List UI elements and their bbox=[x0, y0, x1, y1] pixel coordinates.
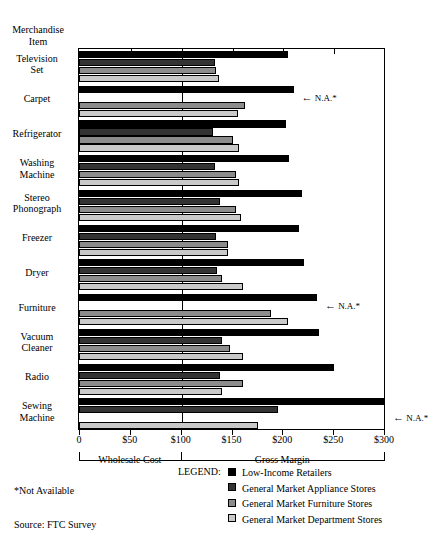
category-label-line: Washing bbox=[0, 157, 76, 169]
bar-furniture-s0 bbox=[79, 294, 317, 301]
bar-freezer-s1 bbox=[79, 233, 216, 240]
bar-radio-s2 bbox=[79, 380, 243, 387]
category-label-carpet: Carpet bbox=[0, 93, 76, 105]
category-label-refrigerator: Refrigerator bbox=[0, 128, 76, 140]
bar-vacuum-cleaner-s2 bbox=[79, 345, 230, 352]
bracket-line bbox=[181, 460, 384, 461]
na-arrow-icon: ← bbox=[393, 411, 404, 423]
legend-item-2[interactable]: General Market Furniture Stores bbox=[228, 497, 372, 512]
bar-sewing-machine-s1 bbox=[79, 406, 278, 413]
na-arrow-icon: ← bbox=[302, 91, 313, 103]
category-label-stereo-phonograph: StereoPhonograph bbox=[0, 192, 76, 215]
category-label-washing-machine: WashingMachine bbox=[0, 157, 76, 180]
category-label-line: Radio bbox=[0, 371, 76, 383]
bar-radio-s1 bbox=[79, 372, 220, 379]
bar-freezer-s3 bbox=[79, 249, 228, 256]
category-label-line: Machine bbox=[0, 412, 76, 424]
bar-washing-machine-s1 bbox=[79, 163, 215, 170]
category-label-line: Carpet bbox=[0, 93, 76, 105]
top-tick-250 bbox=[334, 49, 335, 54]
category-label-line: Stereo bbox=[0, 192, 76, 204]
legend-item-3[interactable]: General Market Department Stores bbox=[228, 513, 382, 528]
legend-item-label: Low-Income Retailers bbox=[242, 467, 332, 478]
y-axis-title: Merchandise Item bbox=[0, 24, 76, 47]
footnote-source: Source: FTC Survey bbox=[14, 519, 96, 530]
category-label-sewing-machine: SewingMachine bbox=[0, 400, 76, 423]
na-arrow-icon: ← bbox=[325, 299, 336, 311]
bar-television-set-s3 bbox=[79, 75, 219, 82]
bar-carpet-s3 bbox=[79, 110, 238, 117]
category-label-freezer: Freezer bbox=[0, 232, 76, 244]
bar-washing-machine-s2 bbox=[79, 171, 236, 178]
bar-refrigerator-s2 bbox=[79, 136, 233, 143]
bar-vacuum-cleaner-s3 bbox=[79, 353, 243, 360]
bar-television-set-s1 bbox=[79, 59, 215, 66]
legend-item-0[interactable]: Low-Income Retailers bbox=[228, 466, 332, 481]
bracket-line bbox=[79, 460, 181, 461]
bar-freezer-s0 bbox=[79, 225, 299, 232]
category-label-line: Dryer bbox=[0, 267, 76, 279]
bar-refrigerator-s3 bbox=[79, 144, 239, 151]
category-label-line: Furniture bbox=[0, 302, 76, 314]
bar-dryer-s0 bbox=[79, 259, 304, 266]
category-label-furniture: Furniture bbox=[0, 302, 76, 314]
bar-stereo-phonograph-s3 bbox=[79, 214, 241, 221]
legend-item-label: General Market Department Stores bbox=[242, 514, 382, 525]
y-axis-title-line2: Item bbox=[0, 36, 76, 48]
category-label-dryer: Dryer bbox=[0, 267, 76, 279]
bar-vacuum-cleaner-s1 bbox=[79, 337, 222, 344]
x-tick-label-50: $50 bbox=[122, 434, 137, 445]
category-label-vacuum-cleaner: VacuumCleaner bbox=[0, 331, 76, 354]
x-tick-label-0: 0 bbox=[77, 434, 82, 445]
bar-furniture-s3 bbox=[79, 318, 288, 325]
category-label-line: Machine bbox=[0, 169, 76, 181]
bar-stereo-phonograph-s0 bbox=[79, 190, 302, 197]
na-label: N.A.* bbox=[404, 413, 428, 423]
x-tick-label-250: $250 bbox=[323, 434, 343, 445]
bar-television-set-s2 bbox=[79, 67, 216, 74]
x-axis: 0$50$100$150$200$250$300 bbox=[78, 430, 385, 444]
bar-carpet-s0 bbox=[79, 86, 294, 93]
x-tick-label-200: $200 bbox=[272, 434, 292, 445]
bar-radio-s0 bbox=[79, 364, 334, 371]
x-tick-label-150: $150 bbox=[222, 434, 242, 445]
category-label-line: Sewing bbox=[0, 400, 76, 412]
category-label-line: Refrigerator bbox=[0, 128, 76, 140]
na-label: N.A.* bbox=[336, 301, 360, 311]
y-axis-title-line1: Merchandise bbox=[0, 24, 76, 36]
bar-washing-machine-s0 bbox=[79, 155, 289, 162]
x-tick-label-300: $300 bbox=[374, 434, 394, 445]
bracket-tick-300 bbox=[384, 452, 385, 461]
legend-swatch-icon bbox=[228, 483, 236, 491]
legend-item-1[interactable]: General Market Appliance Stores bbox=[228, 482, 376, 497]
x-tick-label-100: $100 bbox=[171, 434, 191, 445]
category-label-line: Television bbox=[0, 53, 76, 65]
bar-refrigerator-s1 bbox=[79, 128, 213, 135]
bar-washing-machine-s3 bbox=[79, 179, 239, 186]
category-label-line: Vacuum bbox=[0, 331, 76, 343]
plot-area: ← N.A.*← N.A.*← N.A.* bbox=[78, 48, 385, 430]
bar-stereo-phonograph-s2 bbox=[79, 206, 236, 213]
bar-carpet-s2 bbox=[79, 102, 245, 109]
bar-vacuum-cleaner-s0 bbox=[79, 329, 319, 336]
category-label-television-set: TelevisionSet bbox=[0, 53, 76, 76]
bar-television-set-s0 bbox=[79, 51, 288, 58]
na-marker: ← N.A.* bbox=[302, 93, 337, 103]
na-marker: ← N.A.* bbox=[325, 301, 360, 311]
legend-swatch-icon bbox=[228, 468, 236, 476]
bar-sewing-machine-s0 bbox=[79, 398, 385, 405]
bar-radio-s3 bbox=[79, 388, 222, 395]
category-label-line: Cleaner bbox=[0, 342, 76, 354]
legend-swatch-icon bbox=[228, 514, 236, 522]
bar-stereo-phonograph-s1 bbox=[79, 198, 220, 205]
legend-item-label: General Market Furniture Stores bbox=[242, 498, 372, 509]
bar-sewing-machine-s3 bbox=[79, 422, 258, 429]
category-label-line: Freezer bbox=[0, 232, 76, 244]
legend-title: LEGEND: bbox=[178, 466, 221, 477]
na-label: N.A.* bbox=[313, 93, 337, 103]
legend-swatch-icon bbox=[228, 499, 236, 507]
bar-dryer-s1 bbox=[79, 267, 217, 274]
bar-refrigerator-s0 bbox=[79, 120, 286, 127]
footnote-not-available: *Not Available bbox=[14, 485, 74, 496]
